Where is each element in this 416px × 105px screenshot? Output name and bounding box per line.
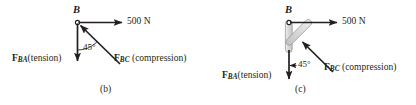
joint-label-c: B (285, 5, 292, 16)
load-label-500n-b: 500 N (127, 17, 151, 27)
figure-root: B 500 N 45° FBA(tension) FBC (compressio… (0, 0, 416, 105)
force-qualifier-fbc-b: (compression) (132, 53, 186, 63)
angle-label-45-c: 45° (298, 60, 311, 69)
force-subscript-fba-c: BA (228, 73, 238, 81)
force-subscript-fbc-c: BC (330, 65, 340, 73)
joint-label-b: B (73, 5, 80, 16)
load-label-500n-c: 500 N (342, 17, 366, 27)
caption-b: (b) (100, 85, 111, 95)
caption-c: (c) (295, 85, 306, 95)
force-label-fbc-c: FBC (compression) (324, 63, 396, 73)
force-qualifier-fbc-c: (compression) (342, 62, 396, 72)
force-label-fba-c: FBA(tension) (222, 71, 271, 81)
force-label-fba-b: FBA(tension) (12, 54, 61, 64)
force-qualifier-fba-b: (tension) (28, 53, 62, 63)
force-label-fbc-b: FBC (compression) (114, 54, 186, 64)
force-subscript-fbc-b: BC (120, 56, 130, 64)
angle-label-45-b: 45° (83, 43, 96, 52)
force-subscript-fba-b: BA (18, 56, 28, 64)
force-qualifier-fba-c: (tension) (238, 70, 272, 80)
